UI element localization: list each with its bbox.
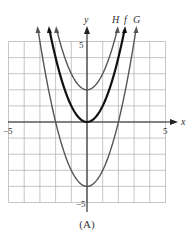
y-axis-arrow-icon [84,26,90,34]
curve-arrow-icon [133,26,138,33]
curve-arrow-icon [122,26,127,33]
curve-label-G: G [133,14,140,25]
curve-label-H: H [111,14,120,25]
curve-arrow-icon [54,26,59,33]
y-min-label: −5 [76,199,86,209]
x-axis-label: x [180,116,186,127]
x-min-label: −5 [3,126,13,136]
curve-arrow-icon [115,26,120,33]
x-max-label: 5 [163,126,168,136]
curve-arrow-icon [47,26,52,33]
curve-arrow-icon [36,26,41,33]
x-axis-arrow-icon [170,119,178,125]
figure-caption: (A) [0,218,174,230]
y-max-label: 5 [79,40,84,50]
y-axis-label: y [83,14,89,25]
parabola-chart: x y −5 5 5 −5 H f G [0,0,190,244]
curve-label-f: f [124,14,128,25]
